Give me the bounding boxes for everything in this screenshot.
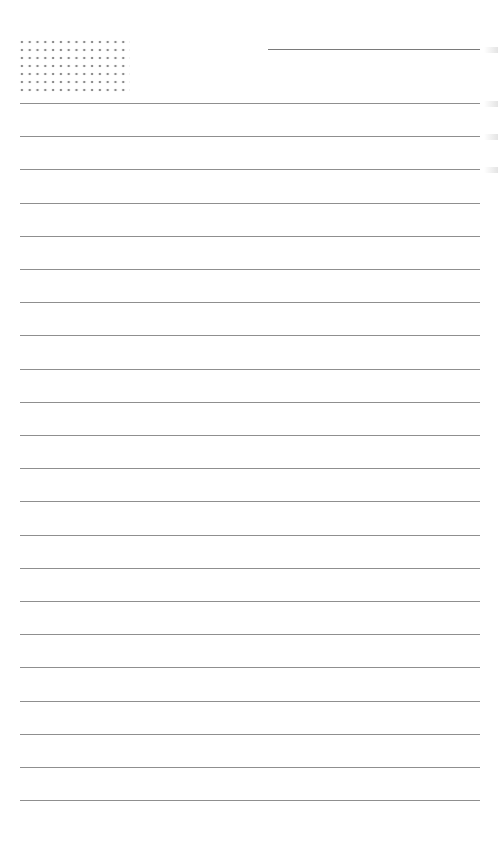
ruled-line bbox=[20, 501, 480, 502]
edge-shade bbox=[484, 167, 498, 173]
ruled-line bbox=[20, 203, 480, 204]
ruled-line bbox=[20, 369, 480, 370]
ruled-line bbox=[20, 734, 480, 735]
ruled-line bbox=[20, 634, 480, 635]
notepaper-page bbox=[0, 0, 498, 853]
ruled-line bbox=[20, 269, 480, 270]
edge-shade bbox=[484, 101, 498, 107]
ruled-line bbox=[20, 667, 480, 668]
ruled-line bbox=[20, 335, 480, 336]
ruled-line bbox=[20, 236, 480, 237]
ruled-line bbox=[20, 800, 480, 801]
ruled-line bbox=[20, 302, 480, 303]
ruled-line bbox=[20, 601, 480, 602]
ruled-line bbox=[20, 435, 480, 436]
ruled-line bbox=[20, 767, 480, 768]
title-line bbox=[268, 49, 480, 50]
ruled-line bbox=[20, 136, 480, 137]
ruled-line bbox=[20, 402, 480, 403]
ruled-line bbox=[20, 468, 480, 469]
ruled-line bbox=[20, 701, 480, 702]
ruled-line bbox=[20, 169, 480, 170]
ruled-line bbox=[20, 568, 480, 569]
dot-grid-decoration bbox=[18, 38, 130, 94]
edge-shade bbox=[484, 47, 498, 53]
edge-shade bbox=[484, 134, 498, 140]
ruled-line bbox=[20, 535, 480, 536]
ruled-line bbox=[20, 103, 480, 104]
